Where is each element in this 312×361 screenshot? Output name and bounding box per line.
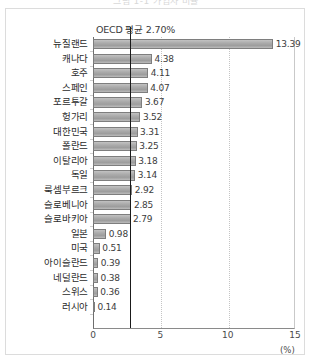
bar-스위스[interactable] xyxy=(93,287,98,297)
chart-row: 독일3.14 xyxy=(6,168,312,183)
bar-value-스페인: 4.07 xyxy=(150,81,169,96)
bar-value-슬로베니아: 2.85 xyxy=(134,198,153,213)
category-label-아이슬란드: 아이슬란드 xyxy=(6,256,88,271)
bar-value-스위스: 0.36 xyxy=(100,285,119,300)
chart-row: 캐나다4.38 xyxy=(6,52,312,67)
bar-value-이탈리아: 3.18 xyxy=(138,154,157,169)
chart-row: 포르투갈3.67 xyxy=(6,95,312,110)
oecd-average-annotation-label: OECD 평균 2.70% xyxy=(96,22,175,36)
category-label-미국: 미국 xyxy=(6,241,88,256)
chart-row: 네덜란드0.38 xyxy=(6,271,312,286)
category-label-러시아: 러시아 xyxy=(6,300,88,315)
chart-row: 러시아0.14 xyxy=(6,300,312,315)
oecd-average-line xyxy=(130,27,131,328)
category-tick xyxy=(90,314,93,315)
bar-value-캐나다: 4.38 xyxy=(154,52,173,67)
chart-frame: OECD 평균 2.70% 뉴질랜드13.39캐나다4.38호주4.11스페인4… xyxy=(5,8,305,355)
chart-row: 스위스0.36 xyxy=(6,285,312,300)
x-tick-10: 10 xyxy=(222,330,233,340)
bar-value-폴란드: 3.25 xyxy=(139,139,158,154)
category-label-폴란드: 폴란드 xyxy=(6,139,88,154)
category-label-독일: 독일 xyxy=(6,168,88,183)
x-axis-unit-label: (%) xyxy=(280,345,295,355)
bar-호주[interactable] xyxy=(93,68,148,78)
bar-value-러시아: 0.14 xyxy=(97,300,116,315)
bar-슬로바키아[interactable] xyxy=(93,214,131,224)
bar-미국[interactable] xyxy=(93,243,100,253)
chart-row: 폴란드3.25 xyxy=(6,139,312,154)
bar-네덜란드[interactable] xyxy=(93,273,98,283)
bar-value-미국: 0.51 xyxy=(102,241,121,256)
category-label-캐나다: 캐나다 xyxy=(6,52,88,67)
category-label-슬로바키아: 슬로바키아 xyxy=(6,212,88,227)
category-label-대한민국: 대한민국 xyxy=(6,125,88,140)
x-tick-15: 15 xyxy=(289,330,300,340)
bar-value-일본: 0.98 xyxy=(109,227,128,242)
bar-러시아[interactable] xyxy=(93,302,95,312)
category-label-일본: 일본 xyxy=(6,227,88,242)
bar-value-뉴질랜드: 13.39 xyxy=(276,37,301,52)
chart-row: 대한민국3.31 xyxy=(6,125,312,140)
bar-value-네덜란드: 0.38 xyxy=(101,271,120,286)
chart-container: 그림 1-1 가입자 비율 OECD 평균 2.70% 뉴질랜드13.39캐나다… xyxy=(0,0,312,361)
bar-뉴질랜드[interactable] xyxy=(93,39,273,49)
chart-row: 뉴질랜드13.39 xyxy=(6,37,312,52)
chart-row: 슬로베니아2.85 xyxy=(6,198,312,213)
chart-row: 이탈리아3.18 xyxy=(6,154,312,169)
chart-row: 헝가리3.52 xyxy=(6,110,312,125)
bar-value-아이슬란드: 0.39 xyxy=(101,256,120,271)
bar-value-헝가리: 3.52 xyxy=(143,110,162,125)
x-tick-0: 0 xyxy=(90,330,96,340)
chart-row: 아이슬란드0.39 xyxy=(6,256,312,271)
bar-value-포르투갈: 3.67 xyxy=(145,95,164,110)
category-label-네덜란드: 네덜란드 xyxy=(6,271,88,286)
bar-value-룩셈부르크: 2.92 xyxy=(135,183,154,198)
clipped-page-title: 그림 1-1 가입자 비율 xyxy=(0,0,312,7)
bar-아이슬란드[interactable] xyxy=(93,258,98,268)
category-label-이탈리아: 이탈리아 xyxy=(6,154,88,169)
chart-row: 미국0.51 xyxy=(6,241,312,256)
bar-포르투갈[interactable] xyxy=(93,97,142,107)
category-label-헝가리: 헝가리 xyxy=(6,110,88,125)
bar-룩셈부르크[interactable] xyxy=(93,185,132,195)
x-axis: 051015 xyxy=(93,330,295,346)
category-label-포르투갈: 포르투갈 xyxy=(6,95,88,110)
category-label-룩셈부르크: 룩셈부르크 xyxy=(6,183,88,198)
bar-스페인[interactable] xyxy=(93,83,148,93)
chart-row: 호주4.11 xyxy=(6,66,312,81)
chart-row: 룩셈부르크2.92 xyxy=(6,183,312,198)
clipped-page-title-text: 그림 1-1 가입자 비율 xyxy=(113,0,199,6)
bar-rows: 뉴질랜드13.39캐나다4.38호주4.11스페인4.07포르투갈3.67헝가리… xyxy=(6,37,312,329)
bar-헝가리[interactable] xyxy=(93,112,140,122)
category-label-스페인: 스페인 xyxy=(6,81,88,96)
bar-슬로베니아[interactable] xyxy=(93,200,131,210)
chart-row: 슬로바키아2.79 xyxy=(6,212,312,227)
bar-value-대한민국: 3.31 xyxy=(140,125,159,140)
category-label-호주: 호주 xyxy=(6,66,88,81)
chart-row: 일본0.98 xyxy=(6,227,312,242)
category-label-스위스: 스위스 xyxy=(6,285,88,300)
bar-캐나다[interactable] xyxy=(93,54,152,64)
category-label-슬로베니아: 슬로베니아 xyxy=(6,198,88,213)
bar-value-독일: 3.14 xyxy=(138,168,157,183)
bar-독일[interactable] xyxy=(93,170,135,180)
category-label-뉴질랜드: 뉴질랜드 xyxy=(6,37,88,52)
bar-일본[interactable] xyxy=(93,229,106,239)
chart-row: 스페인4.07 xyxy=(6,81,312,96)
bar-value-슬로바키아: 2.79 xyxy=(133,212,152,227)
x-tick-5: 5 xyxy=(157,330,163,340)
bar-value-호주: 4.11 xyxy=(151,66,170,81)
